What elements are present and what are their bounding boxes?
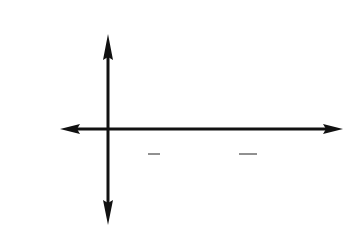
x-axis-right-arrow-icon: [323, 124, 343, 134]
x-axis: [60, 124, 343, 134]
x-axis-left-arrow-icon: [60, 124, 80, 134]
cosine-graph: [0, 0, 357, 246]
y-axis-up-arrow-icon: [103, 34, 113, 60]
y-axis-down-arrow-icon: [103, 200, 113, 225]
